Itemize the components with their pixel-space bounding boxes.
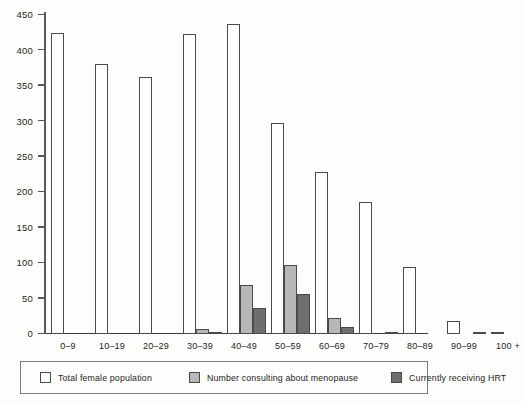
bar (359, 202, 372, 334)
y-axis-tick-label: 300 (17, 115, 33, 126)
bar (385, 332, 398, 335)
y-axis-tick: 100 (38, 262, 45, 264)
x-axis-tick-label: 30–39 (187, 341, 213, 351)
bar-group: 0–9 (46, 15, 90, 334)
y-axis-tick: 300 (38, 120, 45, 122)
light-gray-square-swatch (189, 372, 200, 383)
x-axis-tick-label: 70–79 (363, 341, 389, 351)
y-axis-tick-label: 100 (17, 257, 33, 268)
y-axis-tick-label: 350 (17, 80, 33, 91)
x-axis-tick-label: 90–99 (451, 341, 477, 351)
bar-group: 20–29 (134, 15, 178, 334)
y-axis-tick-label: 400 (17, 44, 33, 55)
legend-item-label: Number consulting about menopause (207, 373, 358, 383)
y-axis-tick: 250 (38, 155, 45, 157)
bar (227, 24, 240, 334)
legend-item: Number consulting about menopause (189, 372, 358, 383)
bar-group: 50–59 (266, 15, 310, 334)
dark-gray-square-swatch (391, 372, 402, 383)
x-axis-tick-label: 80–89 (407, 341, 433, 351)
legend-item: Currently receiving HRT (391, 372, 506, 383)
y-axis-tick-label: 150 (17, 221, 33, 232)
y-axis-tick: 50 (38, 297, 45, 299)
bar (196, 329, 209, 334)
bar (491, 332, 504, 335)
bar (297, 294, 310, 334)
bar-group: 60–69 (310, 15, 354, 334)
y-axis-tick: 350 (38, 84, 45, 86)
chart-legend: Total female populationNumber consulting… (20, 361, 428, 394)
y-axis-tick-label: 0 (28, 328, 33, 339)
y-axis-tick: 450 (38, 14, 45, 16)
x-axis-tick-label: 0–9 (60, 341, 76, 351)
bar-group: 100 + (486, 15, 524, 334)
plot-area: 050100150200250300350400450 0–910–1920–2… (44, 15, 428, 334)
bar (341, 327, 354, 334)
legend-item: Total female population (40, 372, 152, 383)
bar (95, 64, 108, 334)
y-axis-tick-label: 200 (17, 186, 33, 197)
x-axis-tick-label: 40–49 (231, 341, 257, 351)
bar-group: 30–39 (178, 15, 222, 334)
y-axis-tick: 0 (38, 333, 45, 335)
y-axis-tick-label: 50 (22, 292, 33, 303)
bar (51, 33, 64, 334)
bar (328, 318, 341, 334)
y-axis-tick: 200 (38, 191, 45, 193)
bar (209, 332, 222, 335)
bar (284, 265, 297, 334)
bar-group: 40–49 (222, 15, 266, 334)
bar-group: 90–99 (442, 15, 486, 334)
y-axis-tick: 150 (38, 226, 45, 228)
x-axis-tick-label: 60–69 (319, 341, 345, 351)
y-axis-tick: 400 (38, 49, 45, 51)
y-axis-tick-label: 450 (17, 9, 33, 20)
bar (253, 308, 266, 334)
legend-item-label: Currently receiving HRT (409, 373, 506, 383)
x-axis-tick-label: 50–59 (275, 341, 301, 351)
bar (447, 321, 460, 334)
bar (315, 172, 328, 334)
bar-group: 80–89 (398, 15, 442, 334)
x-axis-tick-label: 10–19 (99, 341, 125, 351)
bar-group: 10–19 (90, 15, 134, 334)
x-axis-tick-label: 100 + (496, 341, 520, 351)
y-axis-tick-label: 250 (17, 151, 33, 162)
bar (240, 285, 253, 334)
bar-group: 70–79 (354, 15, 398, 334)
x-axis-tick-label: 20–29 (143, 341, 169, 351)
bar (139, 77, 152, 334)
bar-groups: 0–910–1920–2930–3940–4950–5960–6970–7980… (46, 15, 428, 334)
bar (183, 34, 196, 334)
bar (271, 123, 284, 334)
white-square-swatch (40, 372, 51, 383)
bar (473, 332, 486, 335)
legend-item-label: Total female population (58, 373, 152, 383)
bar (403, 267, 416, 334)
